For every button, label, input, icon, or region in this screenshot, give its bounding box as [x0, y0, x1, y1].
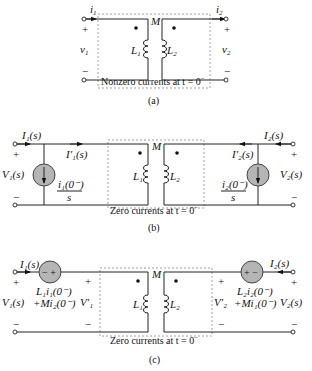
- minus-sign: −: [13, 191, 19, 203]
- caption-b: (b): [148, 222, 160, 234]
- box-label: Zero currents at t = 0−: [110, 334, 198, 346]
- label-l1: L₁: [132, 170, 143, 182]
- plus-sign: +: [291, 148, 297, 160]
- panel-b: I₁(s) I′₁(s) I₂(s) I′₂(s) M + + − − V₁(s…: [2, 129, 302, 234]
- source-right-denominator: s: [231, 191, 235, 203]
- label-I2-prime: I′₂(s): [231, 148, 254, 161]
- label-l1: L1: [130, 44, 141, 58]
- minus-sign: −: [218, 318, 224, 330]
- source-left-value: i₁(0⁻): [58, 178, 84, 191]
- coupled-inductor-diagram: i1 i2 M + + − − v1 v2 L1 L2 Nonzero curr…: [0, 0, 312, 371]
- source-left-denominator: s: [67, 191, 71, 203]
- caption-a: (a): [148, 95, 159, 107]
- label-V1-prime: V′₁: [80, 296, 93, 308]
- label-l2: L₂: [169, 298, 180, 310]
- minus-sign: −: [13, 318, 19, 330]
- plus-sign: +: [218, 275, 224, 287]
- label-I2: I₂(s): [263, 129, 283, 142]
- terminal: [291, 142, 295, 146]
- label-V1: V₁(s): [2, 296, 24, 309]
- label-V2: V₂(s): [280, 296, 302, 309]
- terminal: [291, 270, 295, 274]
- plus-sign: +: [85, 275, 91, 287]
- label-V1: V₁(s): [2, 168, 24, 181]
- inductor-l2-coil: [162, 40, 167, 58]
- plus-sign: +: [224, 23, 230, 35]
- polarity-dot-l1: [136, 279, 140, 283]
- polarity-dot-l2: [174, 279, 178, 283]
- terminal: [291, 330, 295, 334]
- label-v2: v2: [222, 43, 231, 57]
- terminal: [224, 78, 228, 82]
- inductor-l1-coil: [144, 40, 149, 58]
- label-mutual-m: M: [151, 140, 162, 152]
- inductor-l2-coil: [164, 295, 169, 313]
- minus-sign: −: [291, 191, 297, 203]
- plus-sign: +: [291, 276, 297, 288]
- caption-c: (c): [149, 354, 160, 366]
- source-left-line2: +Mi₂(0⁻): [33, 297, 76, 310]
- label-V2: V₂(s): [280, 168, 302, 181]
- label-I2: I₂(s): [269, 257, 289, 270]
- label-I1: I₁(s): [21, 129, 41, 142]
- terminal: [13, 203, 17, 207]
- plus-sign: +: [82, 23, 88, 35]
- minus-sign: −: [82, 65, 88, 77]
- label-I1-prime: I′₁(s): [65, 148, 88, 161]
- minus-sign: −: [224, 65, 230, 77]
- source-left-polarity: − +: [42, 267, 56, 278]
- label-i2: i2: [216, 3, 223, 17]
- terminal: [13, 330, 17, 334]
- label-mutual-m: M: [151, 268, 162, 280]
- terminal: [13, 142, 17, 146]
- polarity-dot-l2: [172, 26, 176, 30]
- polarity-dot-l2: [175, 151, 179, 155]
- box-label: Nonzero currents at t = 0−: [101, 75, 205, 87]
- polarity-dot-l1: [134, 26, 138, 30]
- label-v1: v1: [80, 43, 88, 57]
- terminal: [224, 17, 228, 21]
- polarity-dot-l1: [138, 151, 142, 155]
- minus-sign: −: [85, 318, 91, 330]
- terminal: [82, 78, 86, 82]
- plus-sign: +: [13, 276, 19, 288]
- source-right-value: i₂(0⁻): [222, 178, 248, 191]
- inductor-l2-coil: [164, 165, 169, 183]
- terminal: [291, 203, 295, 207]
- label-l2: L2: [166, 44, 177, 58]
- source-right-line2: +Mi₁(0⁻): [234, 297, 277, 310]
- plus-sign: +: [13, 148, 19, 160]
- terminal: [82, 17, 86, 21]
- panel-c: − + + − I₁(s) I₂(s) M + + + + − − − − V₁…: [2, 257, 302, 366]
- minus-sign: −: [291, 318, 297, 330]
- source-right-polarity: + −: [244, 267, 258, 278]
- label-I1: I₁(s): [19, 258, 39, 271]
- inductor-l1-coil: [144, 165, 149, 183]
- label-l2: L₂: [169, 170, 180, 182]
- label-V2-prime: V′₂: [214, 296, 227, 308]
- label-mutual-m: M: [150, 15, 161, 27]
- label-l1: L₁: [132, 298, 143, 310]
- box-label: Zero currents at t = 0−: [110, 204, 198, 216]
- inductor-l1-coil: [144, 295, 149, 313]
- panel-a: i1 i2 M + + − − v1 v2 L1 L2 Nonzero curr…: [80, 3, 231, 107]
- label-i1: i1: [90, 3, 97, 17]
- terminal: [13, 270, 17, 274]
